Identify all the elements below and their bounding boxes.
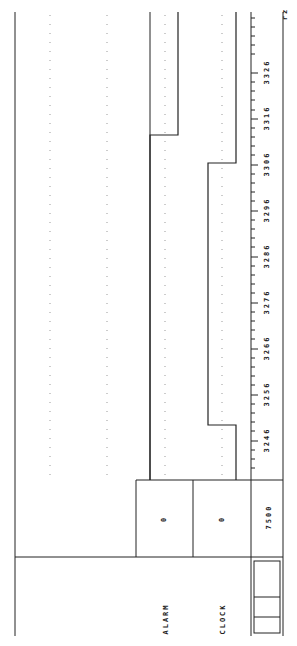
clock-label: CLOCK (219, 603, 227, 634)
corner-mark: rz (281, 8, 289, 20)
axis-ticks (251, 18, 258, 468)
tick-label-3316: 3316 (263, 106, 271, 131)
axis-start-label: 7500 (265, 505, 273, 530)
tick-label-3286: 3286 (263, 244, 271, 269)
tick-label-3256: 3256 (263, 382, 271, 407)
alarm-value: 0 (160, 516, 168, 522)
alarm-label: ALARM (162, 603, 170, 634)
tick-label-3306: 3306 (263, 152, 271, 177)
clock-value: 0 (218, 516, 226, 522)
tick-label-3296: 3296 (263, 198, 271, 223)
tick-label-3326: 3326 (263, 60, 271, 85)
tick-label-3266: 3266 (263, 336, 271, 361)
clock-waveform (208, 12, 236, 480)
tick-label-3276: 3276 (263, 290, 271, 315)
alarm-waveform (150, 12, 178, 480)
grid-dots (50, 15, 222, 475)
timing-diagram (0, 0, 297, 646)
tick-label-3246: 3246 (263, 428, 271, 453)
